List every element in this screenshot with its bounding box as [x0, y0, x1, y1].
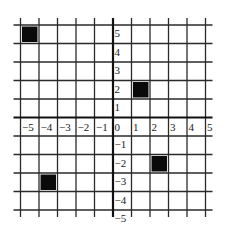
x-tick-label: 3 — [170, 121, 176, 133]
coordinate-grid: −5−4−3−2−1012345 54321−1−2−3−4−5 — [0, 0, 226, 232]
y-tick-label: 3 — [115, 64, 121, 76]
y-tick-label: −4 — [115, 194, 127, 206]
x-tick-label: 2 — [152, 121, 158, 133]
y-tick-label: 5 — [115, 27, 121, 39]
filled-square — [133, 82, 149, 98]
y-tick-label: −2 — [115, 157, 127, 169]
x-tick-label: 0 — [115, 121, 121, 133]
filled-square — [152, 156, 168, 172]
x-tick-label: −5 — [22, 121, 34, 133]
x-tick-label: 5 — [207, 121, 213, 133]
filled-square — [41, 175, 57, 191]
y-tick-label: −3 — [115, 175, 127, 187]
x-tick-label: −4 — [41, 121, 53, 133]
x-tick-label: −2 — [78, 121, 90, 133]
y-tick-label: 2 — [115, 83, 121, 95]
y-tick-label: 1 — [115, 101, 121, 113]
y-tick-label: 4 — [115, 46, 121, 58]
x-tick-label: −3 — [59, 121, 71, 133]
x-tick-label: −1 — [96, 121, 108, 133]
y-tick-label: −5 — [115, 212, 127, 224]
x-axis-labels: −5−4−3−2−1012345 — [22, 121, 213, 133]
x-tick-label: 1 — [133, 121, 139, 133]
filled-square — [22, 27, 38, 43]
x-tick-label: 4 — [189, 121, 195, 133]
y-tick-label: −1 — [115, 138, 127, 150]
